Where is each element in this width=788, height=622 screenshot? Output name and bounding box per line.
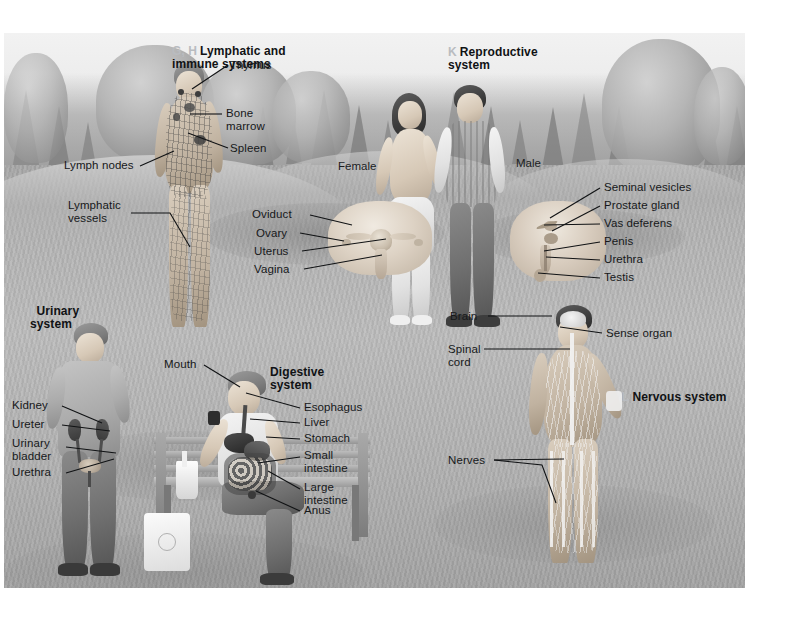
- drink-cup: [176, 461, 198, 499]
- label-penis: Penis: [604, 235, 633, 248]
- oviduct-left: [346, 233, 372, 240]
- label-liver: Liver: [304, 416, 329, 429]
- label-kidney: Kidney: [12, 399, 48, 412]
- label-urethra-urinary: Urethra: [12, 466, 51, 479]
- figure-head: [398, 101, 422, 129]
- section-marker-lymphatic: G, H: [172, 44, 197, 58]
- nerve-strand: [592, 451, 595, 547]
- figure-head: [76, 333, 104, 363]
- label-ureter: Ureter: [12, 418, 45, 431]
- figure-lower-leg: [266, 509, 292, 581]
- title-text-digestive: Digestive system: [270, 365, 324, 392]
- figure-leg: [450, 203, 471, 321]
- label-vagina: Vagina: [254, 263, 290, 276]
- figure-leg: [473, 203, 494, 321]
- figure-lymphatic: [154, 63, 228, 335]
- section-marker-nervous: L: [622, 390, 629, 404]
- section-marker-reproductive: K: [448, 45, 457, 59]
- lymph-node: [178, 89, 184, 95]
- held-object: [606, 391, 622, 411]
- label-uterus: Uterus: [254, 245, 288, 258]
- thymus-organ: [184, 103, 195, 112]
- vagina-organ: [375, 249, 387, 279]
- figure-shoe: [390, 315, 410, 325]
- title-urinary: IUrinary system: [30, 305, 79, 332]
- oviduct-right: [390, 233, 416, 240]
- ovary-left: [342, 239, 351, 246]
- figure-shoe: [260, 573, 294, 585]
- label-lymph-nodes: Lymph nodes: [64, 159, 134, 172]
- nerve-strand: [550, 451, 553, 547]
- ovary-right: [414, 239, 423, 246]
- held-cup: [208, 411, 220, 425]
- bone-marrow-organ: [173, 113, 180, 121]
- nerve-network-legs: [550, 443, 598, 553]
- label-sense-organ: Sense organ: [606, 327, 672, 340]
- urethra-organ: [544, 245, 547, 271]
- label-bone-marrow: Bone marrow: [226, 107, 265, 132]
- title-text-nervous: Nervous system: [632, 390, 726, 404]
- label-nerves: Nerves: [448, 454, 485, 467]
- kidney-right-organ: [96, 419, 109, 441]
- figure-male: [436, 85, 510, 335]
- kidney-left-organ: [68, 419, 81, 441]
- urethra-organ: [88, 471, 91, 487]
- figure-nervous: [520, 305, 618, 573]
- label-mouth: Mouth: [164, 358, 196, 371]
- inset-female-reproductive: [320, 201, 440, 287]
- label-urethra-male: Urethra: [604, 253, 643, 266]
- figure-shoe: [90, 563, 120, 576]
- label-esophagus: Esophagus: [304, 401, 362, 414]
- label-vas-deferens: Vas deferens: [604, 217, 672, 230]
- label-small-intestine: Small intestine: [304, 449, 348, 474]
- anus-organ: [248, 491, 256, 499]
- drink-straw: [182, 451, 187, 467]
- label-testis: Testis: [604, 271, 634, 284]
- nerve-strand: [580, 451, 583, 547]
- testis-organ: [534, 269, 546, 282]
- label-oviduct: Oviduct: [252, 208, 292, 221]
- large-intestine-organ: [224, 453, 276, 495]
- figure-head: [457, 93, 483, 123]
- label-male: Male: [516, 157, 541, 169]
- figure-shoe: [412, 315, 432, 325]
- label-lymphatic-vessels: Lymphatic vessels: [68, 199, 121, 224]
- label-brain: Brain: [450, 310, 477, 323]
- label-female: Female: [338, 160, 376, 172]
- inset-male-reproductive: [504, 201, 614, 293]
- label-stomach: Stomach: [304, 432, 350, 445]
- label-thymus: Thymus: [230, 59, 272, 72]
- label-anus: Anus: [304, 504, 331, 517]
- uterus-organ: [370, 229, 392, 251]
- label-large-intestine: Large intestine: [304, 481, 348, 506]
- canopy-tree: [694, 67, 745, 165]
- canopy-tree: [4, 53, 68, 163]
- lymphatic-vessel-network-legs: [170, 191, 210, 321]
- nerve-network-torso: [546, 351, 600, 447]
- conifer-tree: [542, 107, 564, 169]
- title-digestive: Digestive system: [270, 366, 324, 393]
- bench-armrest: [358, 433, 368, 537]
- nerve-strand: [562, 451, 565, 547]
- figure-shoe: [474, 315, 500, 327]
- figure-digestive: [200, 371, 320, 583]
- title-text-reproductive: Reproductive system: [448, 45, 538, 72]
- section-marker-urinary: I: [30, 304, 33, 318]
- label-urinary-bladder: Urinary bladder: [12, 437, 51, 462]
- pelvis-outline: [510, 201, 606, 281]
- anatomy-systems-figure: G, HLymphatic and immune systems Thymus …: [0, 0, 788, 622]
- label-prostate-gland: Prostate gland: [604, 199, 680, 212]
- figure-shoe: [58, 563, 88, 576]
- label-spinal-cord: Spinal cord: [448, 343, 481, 368]
- lymph-node: [195, 91, 201, 97]
- canopy-tree: [272, 71, 350, 163]
- title-text-urinary: Urinary system: [30, 304, 79, 331]
- spleen-organ: [194, 135, 206, 145]
- illustration-plate: G, HLymphatic and immune systems Thymus …: [4, 33, 745, 588]
- prostate-gland-organ: [544, 233, 558, 244]
- bench-leg: [352, 485, 359, 541]
- label-ovary: Ovary: [256, 227, 287, 240]
- label-seminal-vesicles: Seminal vesicles: [604, 181, 691, 194]
- title-nervous: LNervous system: [622, 391, 727, 404]
- label-spleen: Spleen: [230, 142, 266, 155]
